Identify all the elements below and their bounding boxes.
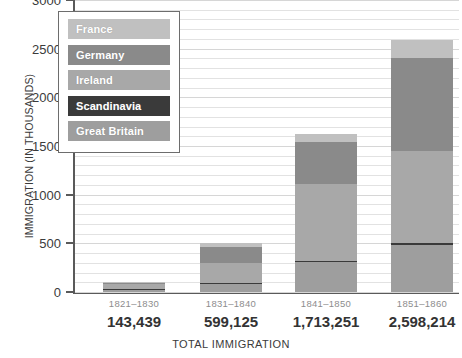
bar-segment[interactable]: [200, 284, 262, 292]
legend-item-label: Ireland: [76, 74, 113, 86]
bar-segment[interactable]: [103, 289, 165, 292]
x-axis-total-value: 599,125: [176, 313, 286, 330]
y-tick: [66, 242, 75, 244]
bar-segment[interactable]: [391, 243, 453, 245]
bar-segment[interactable]: [391, 245, 453, 292]
y-tick-label: 0: [54, 285, 61, 300]
bar-segment[interactable]: [200, 247, 262, 263]
bar-segment[interactable]: [200, 283, 262, 284]
y-tick-label: 3000: [32, 0, 61, 8]
x-axis-total-value: 2,598,214: [367, 313, 462, 330]
x-axis-group: 1821–1830143,439: [79, 298, 189, 330]
legend-item-scandinavia[interactable]: Scandinavia: [68, 96, 170, 116]
y-tick: [66, 0, 75, 1]
y-tick-label: 1500: [32, 139, 61, 154]
bar[interactable]: [200, 243, 262, 292]
x-axis-total-value: 143,439: [79, 313, 189, 330]
bar-segment[interactable]: [103, 283, 165, 284]
y-axis-title: IMMIGRATION (IN THOUSANDS): [23, 31, 35, 281]
legend-item-label: Germany: [76, 49, 124, 61]
legend-item-ireland[interactable]: Ireland: [68, 70, 170, 90]
bar-segment[interactable]: [391, 58, 453, 151]
bar-segment[interactable]: [391, 151, 453, 243]
bar[interactable]: [391, 40, 453, 292]
x-axis-period-label: 1851–1860: [367, 298, 462, 309]
x-axis-group: 1841–18501,713,251: [271, 298, 381, 330]
bar-segment[interactable]: [103, 282, 165, 283]
bar-segment[interactable]: [295, 142, 357, 184]
bar-segment[interactable]: [103, 283, 165, 288]
x-axis-group: 1831–1840599,125: [176, 298, 286, 330]
x-axis-period-label: 1831–1840: [176, 298, 286, 309]
y-tick-label: 500: [39, 236, 61, 251]
bar-segment[interactable]: [295, 262, 357, 292]
x-axis-group: 1851–18602,598,214: [367, 298, 462, 330]
legend-item-label: Great Britain: [76, 125, 144, 137]
legend[interactable]: FranceGermanyIrelandScandinaviaGreat Bri…: [58, 11, 180, 153]
legend-item-france[interactable]: France: [68, 19, 170, 39]
legend-item-label: France: [76, 23, 113, 35]
gridline: [75, 292, 459, 293]
bar-segment[interactable]: [200, 263, 262, 283]
bar-segment[interactable]: [391, 40, 453, 58]
y-tick: [66, 194, 75, 196]
legend-item-germany[interactable]: Germany: [68, 45, 170, 65]
bar-segment[interactable]: [295, 184, 357, 261]
gridline: [75, 0, 459, 1]
bar-segment[interactable]: [295, 261, 357, 262]
legend-item-label: Scandinavia: [76, 100, 141, 112]
bar[interactable]: [103, 282, 165, 292]
bar-segment[interactable]: [200, 243, 262, 247]
y-tick-label: 2500: [32, 41, 61, 56]
x-axis-period-label: 1841–1850: [271, 298, 381, 309]
y-tick-label: 2000: [32, 90, 61, 105]
y-tick: [66, 291, 75, 293]
legend-item-great-britain[interactable]: Great Britain: [68, 121, 170, 141]
bar[interactable]: [295, 134, 357, 292]
bar-segment[interactable]: [295, 134, 357, 142]
x-axis-total-value: 1,713,251: [271, 313, 381, 330]
x-axis-title: TOTAL IMMIGRATION: [0, 338, 462, 350]
immigration-stacked-bar-chart: IMMIGRATION (IN THOUSANDS) 0500100015002…: [0, 0, 462, 358]
y-tick-label: 1000: [32, 187, 61, 202]
x-axis-period-label: 1821–1830: [79, 298, 189, 309]
